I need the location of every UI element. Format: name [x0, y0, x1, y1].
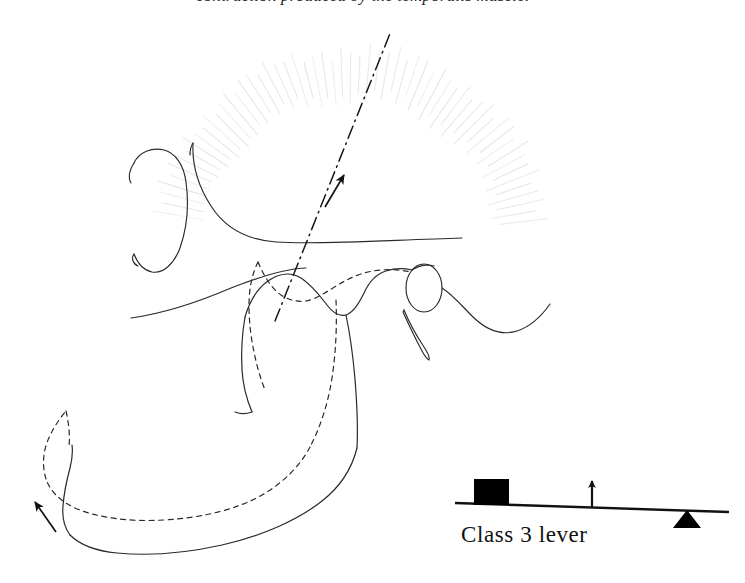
anatomical-line-drawing — [0, 0, 745, 583]
lever-caption: Class 3 lever — [461, 521, 588, 548]
condyle — [406, 264, 442, 312]
chin-elevation-arrow — [35, 502, 56, 532]
fulcrum-triangle — [673, 510, 701, 528]
figure-canvas: contraction produced by the temporalis m… — [0, 0, 745, 583]
styloid-process — [403, 310, 429, 360]
load-block — [474, 479, 509, 505]
mandible-resting-position — [63, 269, 412, 555]
posterior-skull-curve — [412, 265, 550, 333]
skull-base-contour — [190, 143, 462, 243]
